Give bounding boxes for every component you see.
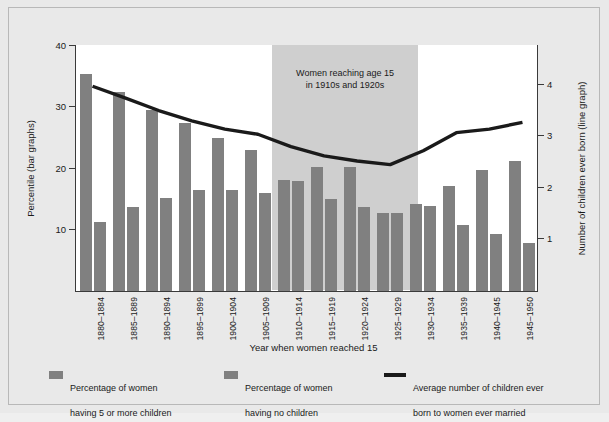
legend-label: Average number of children ever born to … — [413, 369, 543, 422]
y-axis-left-tick-label: 10 — [55, 223, 66, 234]
y-axis-left-title-text: Percentile (bar graphs) — [25, 120, 36, 217]
legend-label-line-2: having 5 or more children — [70, 407, 172, 420]
legend: Percentage of women having 5 or more chi… — [49, 369, 589, 422]
legend-label-line-2: born to women ever married — [413, 407, 543, 420]
x-axis-tick-label: 1880–1884 — [96, 297, 106, 340]
legend-item-five-or-more-children: Percentage of women having 5 or more chi… — [49, 369, 224, 422]
x-axis-title: Year when women reached 15 — [9, 342, 609, 353]
y-axis-left-tick-label: 30 — [55, 101, 66, 112]
x-axis-tick-label: 1940–1945 — [492, 297, 502, 340]
legend-swatch-bar — [49, 371, 63, 379]
legend-label-line-1: Average number of children ever — [413, 382, 543, 395]
x-axis-tick-label: 1920–1924 — [360, 297, 370, 340]
line-series-svg — [76, 45, 539, 292]
x-axis-tick-label: 1945–1950 — [525, 297, 535, 340]
x-axis-tick-label: 1925–1929 — [393, 297, 403, 340]
legend-item-no-children: Percentage of women having no children — [224, 369, 384, 422]
x-axis-tick-label: 1905–1909 — [261, 297, 271, 340]
x-axis-tick-label: 1910–1914 — [294, 297, 304, 340]
legend-item-average-children-line: Average number of children ever born to … — [384, 369, 543, 422]
y-axis-left-tick-mark — [69, 45, 76, 46]
legend-label: Percentage of women having no children — [245, 369, 333, 422]
x-axis-tick-label: 1930–1934 — [426, 297, 436, 340]
x-axis-tick-label: 1885–1889 — [129, 297, 139, 340]
legend-swatch-line — [384, 373, 406, 377]
legend-label-line-2: having no children — [245, 407, 333, 420]
y-axis-right-tick-mark — [537, 238, 544, 239]
y-axis-right-title: Number of children ever born (line graph… — [575, 45, 589, 292]
y-axis-left-tick-label: 40 — [55, 40, 66, 51]
legend-label-line-1: Percentage of women — [245, 382, 333, 395]
y-axis-left-title: Percentile (bar graphs) — [23, 45, 37, 292]
x-axis-tick-label: 1915–1919 — [327, 297, 337, 340]
y-axis-right-title-text: Number of children ever born (line graph… — [577, 82, 588, 256]
y-axis-right-tick-label: 3 — [547, 130, 552, 141]
y-axis-left-tick-mark — [69, 229, 76, 230]
y-axis-left-tick-label: 20 — [55, 162, 66, 173]
figure-frame: Percentile (bar graphs) Number of childr… — [8, 7, 600, 405]
y-axis-right-tick-label: 1 — [547, 233, 552, 244]
average-children-line — [93, 86, 523, 164]
x-axis-tick-label: 1900–1904 — [228, 297, 238, 340]
y-axis-right-tick-label: 4 — [547, 78, 552, 89]
y-axis-right-tick-mark — [537, 84, 544, 85]
y-axis-left-tick-mark — [69, 168, 76, 169]
y-axis-right-tick-mark — [537, 187, 544, 188]
plot-area: Women reaching age 15 in 1910s and 1920s… — [75, 45, 538, 292]
legend-swatch-bar — [224, 371, 238, 379]
x-axis-tick-label: 1935–1939 — [459, 297, 469, 340]
x-axis-tick-label: 1890–1894 — [162, 297, 172, 340]
legend-label: Percentage of women having 5 or more chi… — [70, 369, 172, 422]
y-axis-right-tick-label: 2 — [547, 181, 552, 192]
x-axis-tick-label: 1895–1899 — [195, 297, 205, 340]
y-axis-right-tick-mark — [537, 135, 544, 136]
y-axis-left-tick-mark — [69, 106, 76, 107]
legend-label-line-1: Percentage of women — [70, 382, 172, 395]
